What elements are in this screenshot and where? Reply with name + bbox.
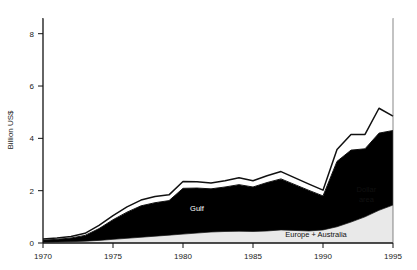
y-axis: 02468: [30, 30, 43, 248]
annotation-label-gulf: Gulf: [190, 204, 205, 213]
annotation-label-dollar: Dollar: [357, 185, 377, 194]
x-tick-label: 1985: [244, 252, 262, 261]
x-tick-label: 1970: [34, 252, 52, 261]
chart-container: 02468 197019751980198519901995 Billion U…: [0, 0, 417, 270]
stacked-area-chart: 02468 197019751980198519901995 Billion U…: [0, 0, 417, 270]
y-tick-label: 6: [30, 82, 35, 91]
annotation-label-europe-australia: Europe + Australia: [285, 230, 347, 239]
annotation-label-area: area: [359, 195, 375, 204]
x-tick-label: 1990: [314, 252, 332, 261]
x-tick-label: 1995: [384, 252, 402, 261]
y-tick-label: 0: [30, 239, 35, 248]
x-tick-label: 1980: [174, 252, 192, 261]
x-axis: 197019751980198519901995: [34, 243, 402, 261]
y-axis-title: Billion US$: [6, 110, 15, 150]
y-tick-label: 4: [30, 134, 35, 143]
x-tick-label: 1975: [104, 252, 122, 261]
y-tick-label: 8: [30, 30, 35, 39]
y-tick-label: 2: [30, 187, 35, 196]
